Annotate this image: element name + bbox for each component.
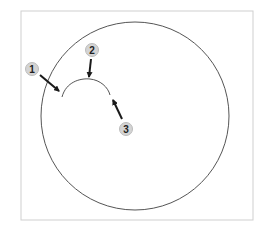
diagram-frame — [21, 11, 253, 220]
callout-1: 1 — [26, 63, 60, 92]
badge-2-label: 2 — [89, 45, 95, 56]
badge-1-label: 1 — [29, 64, 35, 75]
badge-3-label: 3 — [123, 124, 129, 135]
arrow-3-icon — [113, 100, 122, 119]
circle-diagram: 1 2 3 — [0, 0, 270, 233]
callout-3: 3 — [113, 100, 133, 136]
inner-arc — [62, 79, 110, 97]
callout-2: 2 — [86, 44, 99, 78]
arrow-2-icon — [89, 59, 91, 77]
outer-circle — [41, 22, 229, 210]
